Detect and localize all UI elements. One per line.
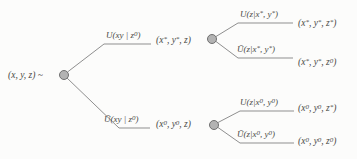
branch-label-ubar-z-zero: Ū(z|x0, y0): [237, 128, 275, 141]
outcome-label-3: (x0, y0, z*): [298, 102, 336, 115]
branch-label-ubar-xy: Ū(xy | z0): [104, 113, 138, 126]
intermediate-node-label-upper: (x*, y*, z): [156, 34, 191, 47]
outcome-label-4: (x0, y0, z0): [298, 135, 336, 148]
branch-label-u-z-zero: U(z|x0, y0): [240, 96, 278, 109]
outcome-label-2: (x*, y*, z0): [298, 56, 336, 69]
branch-line-upper: [68, 44, 152, 72]
decision-node-root: [60, 71, 69, 80]
outcome-label-1: (x*, y*, z*): [298, 17, 336, 30]
root-node-label: (x, y, z) ~: [8, 69, 43, 82]
branch-label-u-z-star: U(z|x*, y*): [240, 8, 278, 21]
branch-label-ubar-z-star: Ū(z|x*, y*): [237, 43, 275, 56]
intermediate-node-label-lower: (x0, y0, z): [156, 118, 191, 131]
branch-line-upper-upper: [216, 23, 293, 37]
probability-update-tree-figure: (x, y, z) ~ U(xy | z0) Ū(xy | z0) (x*, y…: [0, 0, 357, 159]
branch-line-lower-upper: [218, 111, 294, 123]
decision-node-upper: [208, 35, 217, 44]
decision-node-lower: [210, 121, 219, 130]
branch-label-u-xy: U(xy | z0): [106, 29, 140, 42]
